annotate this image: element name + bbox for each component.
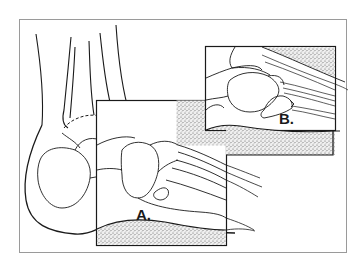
foot-illustration	[0, 0, 358, 265]
inset-b	[206, 47, 349, 156]
inset-b-label: B.	[279, 110, 294, 127]
inset-a-label: A.	[136, 206, 151, 223]
